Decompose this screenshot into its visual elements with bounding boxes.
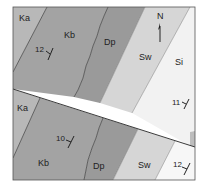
north-label: N xyxy=(157,11,164,21)
svg-text:12: 12 xyxy=(173,160,182,169)
unit-label: Sw xyxy=(138,160,151,170)
unit-label: Dp xyxy=(93,161,105,171)
geologic-map: Ka Kb Dp Sw Si Ka Kb Dp Sw 12 11 10 12 xyxy=(0,0,204,192)
unit-label: Sw xyxy=(139,52,152,62)
unit-label: Dp xyxy=(104,37,116,47)
svg-text:12: 12 xyxy=(35,45,44,54)
unit-label: Kb xyxy=(38,158,49,168)
upper-sliver xyxy=(190,131,195,147)
unit-label: Ka xyxy=(17,103,28,113)
unit-label: Kb xyxy=(64,30,75,40)
unit-label: Si xyxy=(175,57,183,67)
svg-text:11: 11 xyxy=(172,98,181,107)
svg-text:10: 10 xyxy=(56,134,65,143)
unit-label: Ka xyxy=(19,13,30,23)
